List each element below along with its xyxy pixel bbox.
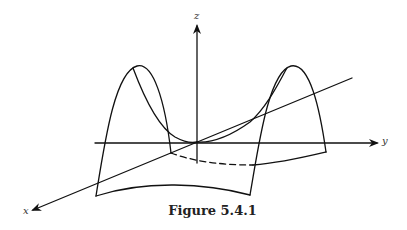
right-saddle-curve — [197, 68, 287, 142]
right-edge-parabola — [250, 66, 326, 195]
left-edge-parabola — [96, 66, 171, 196]
z-axis-label: z — [194, 10, 199, 21]
front-bottom-edge — [96, 185, 250, 196]
left-saddle-curve — [133, 68, 197, 142]
back-right-edge — [253, 152, 326, 165]
saddle-surface-diagram — [0, 0, 407, 230]
figure-caption: Figure 5.4.1 — [0, 203, 407, 218]
y-axis-label: y — [382, 135, 388, 146]
hidden-back-edge — [171, 153, 253, 165]
x-axis — [33, 78, 352, 210]
